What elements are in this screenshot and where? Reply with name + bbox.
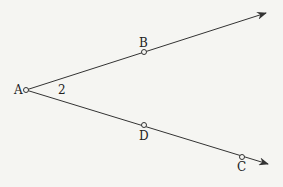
ray-ac (26, 90, 268, 164)
angle-label: 2 (58, 84, 66, 96)
label-b: B (139, 37, 148, 49)
label-a: A (14, 84, 23, 96)
point-d (142, 123, 147, 128)
label-d: D (139, 130, 149, 142)
point-a (24, 88, 29, 93)
diagram-canvas: A B D C 2 (0, 0, 283, 187)
label-c: C (237, 161, 246, 173)
angle-diagram (0, 0, 283, 187)
point-c (240, 155, 245, 160)
point-b (142, 50, 147, 55)
